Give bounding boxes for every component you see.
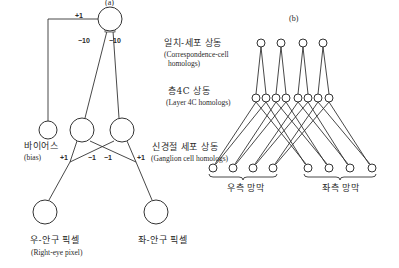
layer4c-node xyxy=(282,94,290,102)
edge-top-to-layer4c xyxy=(281,47,286,94)
right-retina-brace xyxy=(209,174,277,180)
edge-righteye-trunk xyxy=(49,162,70,200)
edge-top-to-layer4c xyxy=(318,47,323,94)
edge-midleft-to-top xyxy=(85,31,107,118)
node-left-eye xyxy=(144,200,168,224)
node-mid-right xyxy=(110,118,134,142)
edge-top-to-layer4c xyxy=(298,47,303,94)
layer4c-node xyxy=(272,94,280,102)
bias-label-en: (bias) xyxy=(24,154,41,162)
weight-le-right: +1 xyxy=(137,154,145,161)
layer4c-label-en: (Layer 4C homologs) xyxy=(166,99,231,107)
edge-layer4c-to-left-retina xyxy=(266,102,305,164)
layer4c-node xyxy=(262,94,270,102)
weight-re-right: −1 xyxy=(104,154,112,161)
layer4c-node xyxy=(325,94,333,102)
edge-lefteye-trunk xyxy=(136,162,152,200)
layer4c-node xyxy=(304,94,312,102)
edge-top-to-layer4c xyxy=(256,47,261,94)
ganglion-cell-node xyxy=(325,164,333,172)
node-right-eye xyxy=(33,200,57,224)
edge-top-to-layer4c xyxy=(323,47,329,94)
ganglion-label-ko: 신경절 세포 상동 xyxy=(152,143,218,152)
correspondence-cell-node xyxy=(257,39,265,47)
ganglion-label-en: (Ganglion cell homologs) xyxy=(151,155,228,163)
node-mid-left xyxy=(70,118,94,142)
correspondence-label-en2: homologs) xyxy=(168,60,200,68)
weight-right-top: −10 xyxy=(109,37,121,44)
left-retina-label: 좌측 망막 xyxy=(322,184,359,193)
ganglion-cell-node xyxy=(304,164,312,172)
diagram-stage: (a) +1 −10 −10 바이어스 (bias) +1 −1 −1 +1 우… xyxy=(0,0,399,268)
edge-layer4c-to-left-retina xyxy=(329,102,369,164)
ganglion-cell-node xyxy=(346,164,354,172)
correspondence-label-ko: 일치-세포 상동 xyxy=(164,39,222,48)
weight-le-left: −1 xyxy=(88,154,96,161)
correspondence-cell-node xyxy=(277,39,285,47)
panel-a-label: (a) xyxy=(105,0,114,7)
left-retina-brace xyxy=(304,174,376,180)
layer4c-node xyxy=(294,94,302,102)
ganglion-cell-node xyxy=(269,164,277,172)
weight-bias-top: +1 xyxy=(75,12,83,19)
edge-top-to-layer4c xyxy=(261,47,266,94)
layer4c-label-ko: 층4C 상동 xyxy=(168,87,210,96)
edge-bias-to-top xyxy=(48,19,98,121)
layer4c-node xyxy=(252,94,260,102)
correspondence-label-en1: (Correspondence-cell xyxy=(164,51,229,59)
ganglion-cell-node xyxy=(209,164,217,172)
weight-left-top: −10 xyxy=(78,37,90,44)
edge-layer4c-to-left-retina xyxy=(308,102,347,164)
ganglion-cell-node xyxy=(249,164,257,172)
edge-midright-to-top xyxy=(113,31,119,118)
panel-b-label: (b) xyxy=(289,15,298,23)
right-eye-pixel-ko: 우-안구 픽셀 xyxy=(30,236,79,245)
correspondence-cell-node xyxy=(319,39,327,47)
left-eye-pixel-ko: 좌-안구 픽셀 xyxy=(138,236,187,245)
node-top xyxy=(98,7,122,31)
right-eye-pixel-en: (Right-eye pixel) xyxy=(31,249,82,257)
correspondence-cell-node xyxy=(299,39,307,47)
node-bias xyxy=(39,121,57,139)
edge-lefteye-to-midleft xyxy=(90,141,136,162)
ganglion-cell-node xyxy=(368,164,376,172)
right-retina-label: 우측 망막 xyxy=(227,184,264,193)
edge-top-to-layer4c xyxy=(276,47,281,94)
ganglion-cell-node xyxy=(229,164,237,172)
bias-label-ko: 바이어스 xyxy=(24,142,58,151)
edge-top-to-layer4c xyxy=(303,47,308,94)
edge-layer4c-to-left-retina xyxy=(318,102,370,164)
layer4c-node xyxy=(314,94,322,102)
weight-re-left: +1 xyxy=(60,154,68,161)
